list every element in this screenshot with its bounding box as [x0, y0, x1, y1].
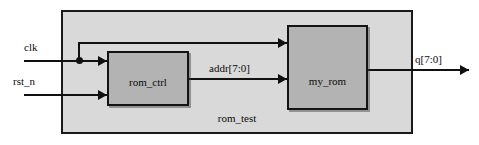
block-my-rom-label: my_rom: [289, 75, 366, 87]
block-rom-ctrl[interactable]: rom_ctrl: [107, 51, 189, 106]
arrowhead-q-output: [460, 65, 469, 75]
wire-clk-input: [24, 60, 107, 62]
arrowhead-addr-to-my-rom: [278, 74, 287, 84]
port-label-rst-n: rst_n: [13, 76, 35, 87]
wire-q-output: [368, 69, 469, 71]
arrowhead-clk-to-my-rom: [278, 38, 287, 48]
wire-addr-bus: [189, 78, 287, 80]
port-label-q: q[7:0]: [415, 54, 442, 65]
block-rom-ctrl-label: rom_ctrl: [109, 76, 187, 88]
arrowhead-rst-n-to-rom-ctrl: [98, 90, 107, 100]
arrowhead-clk-to-rom-ctrl: [98, 56, 107, 66]
module-container-label: rom_test: [61, 113, 413, 124]
block-my-rom[interactable]: my_rom: [287, 25, 368, 110]
wire-clk-branch-vertical: [78, 42, 80, 61]
wire-clk-branch-horizontal: [78, 42, 287, 44]
wire-rst-n-input: [24, 94, 107, 96]
port-label-clk: clk: [24, 42, 37, 53]
block-diagram-canvas: rom_ctrl my_rom clk rst_n addr[7:0] q[7:…: [0, 0, 479, 145]
signal-label-addr: addr[7:0]: [209, 63, 250, 74]
